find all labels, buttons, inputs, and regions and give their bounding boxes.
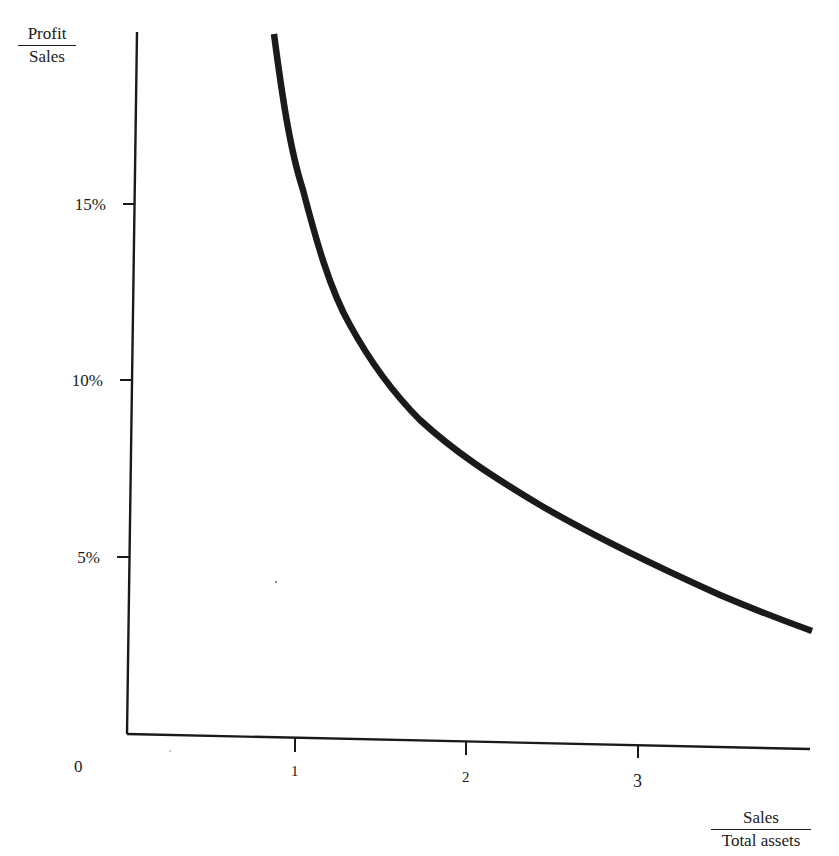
y-axis bbox=[127, 32, 137, 734]
y-tick-label-10: 10% bbox=[53, 372, 103, 389]
x-axis bbox=[127, 734, 810, 749]
y-axis-label: Profit Sales bbox=[18, 24, 76, 66]
x-axis-label-denominator: Total assets bbox=[711, 830, 811, 851]
chart-canvas bbox=[0, 0, 839, 856]
origin-label: 0 bbox=[74, 758, 83, 775]
y-axis-label-denominator: Sales bbox=[18, 46, 76, 67]
x-axis-label: Sales Total assets bbox=[711, 808, 811, 850]
x-axis-label-numerator: Sales bbox=[711, 808, 811, 830]
x-tick-label-3: 3 bbox=[633, 772, 642, 790]
y-tick-label-15: 15% bbox=[56, 196, 106, 213]
y-tick-label-5: 5% bbox=[50, 549, 100, 566]
profit-margin-curve bbox=[274, 34, 812, 631]
x-tick-label-2: 2 bbox=[462, 770, 470, 785]
x-tick-label-1: 1 bbox=[291, 764, 299, 779]
y-axis-label-numerator: Profit bbox=[18, 24, 76, 46]
scan-speck bbox=[169, 750, 171, 752]
scan-speck bbox=[275, 581, 277, 583]
